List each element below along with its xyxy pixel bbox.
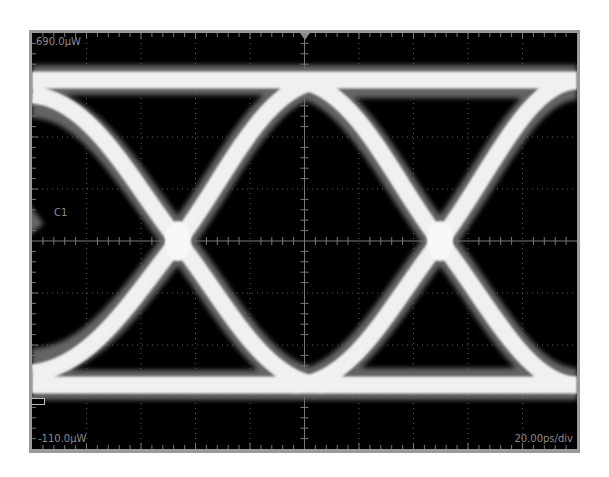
vertical-bottom-scale-label: -110.0µW (38, 433, 87, 445)
trigger-position-marker[interactable] (300, 33, 310, 40)
timebase-label: 20.00ps/div (514, 433, 573, 445)
vertical-top-scale-label: 690.0µW (36, 36, 81, 48)
channel-ground-marker[interactable] (32, 398, 45, 405)
eye-diagram-plot (32, 33, 577, 449)
channel-label: C1 (54, 207, 67, 219)
eye-diagram-display: 690.0µW C1 -110.0µW 20.00ps/div (32, 33, 577, 449)
